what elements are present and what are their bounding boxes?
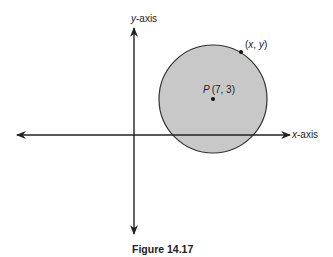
figure-caption: Figure 14.17 (132, 243, 193, 255)
circumference-point-label: (x, y) (245, 39, 267, 50)
center-point-label: P(7, 3) (203, 84, 235, 95)
y-axis-label: y-axis (130, 13, 157, 24)
coordinate-diagram: y-axis x-axis P(7, 3) (x, y) Figure 14.1… (0, 0, 333, 257)
x-axis-label: x-axis (291, 129, 318, 140)
circumference-point (239, 50, 243, 54)
center-point (211, 97, 215, 101)
